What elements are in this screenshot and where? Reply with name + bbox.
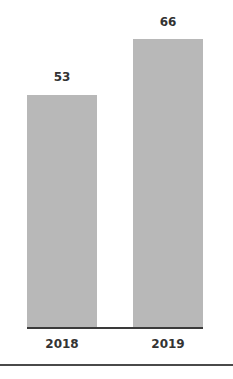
x-tick-label-2019: 2019 [133, 337, 203, 351]
x-tick-label-2018: 2018 [27, 337, 97, 351]
bar-value-label-2018: 53 [27, 70, 97, 84]
bar-2019 [133, 39, 203, 327]
bar-value-label-2019: 66 [133, 15, 203, 29]
bottom-divider [0, 364, 233, 366]
bar-chart: 53 66 2018 2019 [0, 0, 233, 379]
bar-2018 [27, 95, 97, 327]
x-axis-line [27, 327, 203, 329]
